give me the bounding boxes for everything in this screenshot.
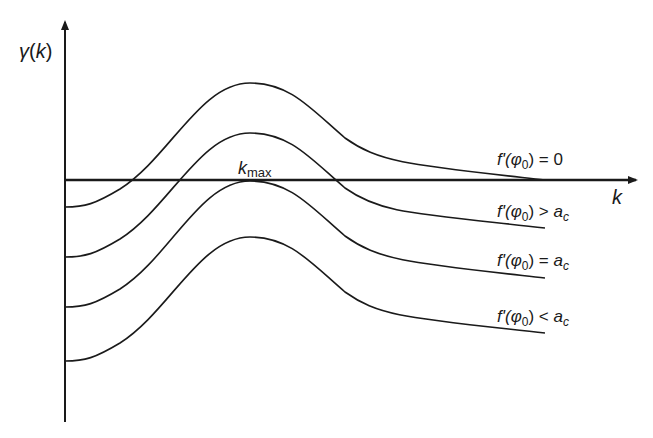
diagram: γ(k) k kmax f'(φ0) = 0 f'(φ0) > ac f'(φ0… — [0, 0, 653, 438]
y-axis-label: γ(k) — [19, 40, 52, 62]
curve-zero — [65, 83, 545, 207]
diagram-svg: γ(k) k kmax f'(φ0) = 0 f'(φ0) > ac f'(φ0… — [0, 0, 653, 438]
curve-less — [65, 237, 545, 361]
curve-label-greater: f'(φ0) > ac — [497, 202, 569, 224]
x-axis-label: k — [612, 186, 623, 208]
curve-equal — [65, 181, 545, 307]
curve-label-equal: f'(φ0) = ac — [497, 251, 569, 273]
kmax-label: kmax — [238, 158, 272, 180]
curve-greater — [65, 133, 545, 257]
curve-label-less: f'(φ0) < ac — [497, 307, 569, 329]
curve-label-zero: f'(φ0) = 0 — [497, 150, 563, 172]
